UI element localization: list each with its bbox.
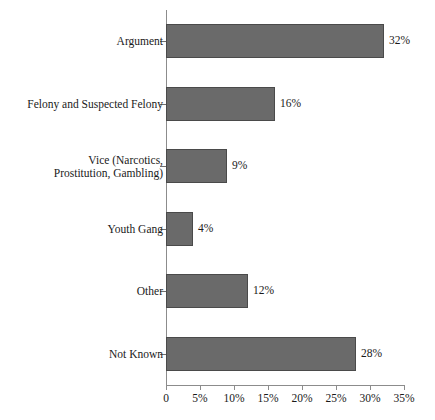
bar-value-label: 32% (389, 34, 410, 47)
bar (166, 149, 227, 183)
bar-value-label: 12% (253, 284, 274, 297)
category-label: Not Known (109, 348, 163, 361)
x-axis-tick-mark (166, 385, 167, 390)
x-axis-tick-label: 35% (384, 392, 424, 405)
category-label: Felony and Suspected Felony (27, 98, 163, 111)
bar-chart: 05%10%15%20%25%30%35% Argument32%Felony … (0, 0, 435, 420)
bar (166, 337, 356, 371)
x-axis-tick-mark (268, 385, 269, 390)
x-axis-tick-mark (336, 385, 337, 390)
bar-value-label: 28% (361, 347, 382, 360)
category-label: Youth Gang (108, 223, 163, 236)
category-label: Vice (Narcotics, Prostitution, Gambling) (54, 154, 163, 179)
x-axis-tick-mark (200, 385, 201, 390)
x-axis-tick-mark (404, 385, 405, 390)
x-axis-tick-mark (302, 385, 303, 390)
y-axis-line (166, 10, 167, 385)
category-label: Argument (117, 35, 163, 48)
bar (166, 274, 248, 308)
bar (166, 24, 384, 58)
x-axis-tick-mark (234, 385, 235, 390)
bar-value-label: 9% (232, 159, 247, 172)
category-label: Other (137, 285, 163, 298)
x-axis-tick-mark (370, 385, 371, 390)
bar-value-label: 4% (198, 222, 213, 235)
bar (166, 87, 275, 121)
bar-value-label: 16% (280, 97, 301, 110)
bar (166, 212, 193, 246)
